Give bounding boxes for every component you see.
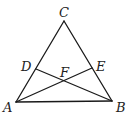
label-d: D	[20, 59, 32, 74]
label-f: F	[59, 65, 70, 80]
label-a: A	[2, 100, 12, 115]
triangle-diagram: C D E F A B	[0, 0, 129, 115]
label-c: C	[59, 5, 69, 20]
segment-ab	[16, 101, 112, 102]
label-b: B	[115, 100, 126, 115]
label-e: E	[95, 59, 106, 74]
